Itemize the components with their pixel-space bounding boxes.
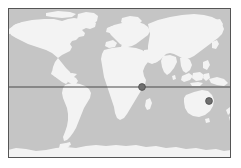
marker-indian-ocean[interactable] (139, 84, 146, 91)
world-map-figure (0, 0, 241, 168)
world-map-canvas (0, 0, 241, 168)
marker-eastern-australia[interactable] (206, 98, 213, 105)
